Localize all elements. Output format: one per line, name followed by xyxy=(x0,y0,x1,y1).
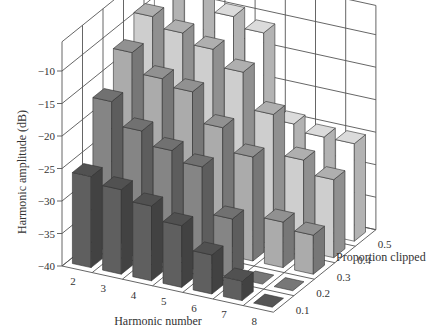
x-tick-label: 4 xyxy=(131,289,137,301)
bar-front-face xyxy=(72,173,91,268)
3d-bar-chart: −10−15−20−25−30−35−4023456780.10.20.30.4… xyxy=(0,0,434,332)
bar-side-face xyxy=(354,135,365,242)
y-axis-title: Proportion clipped xyxy=(336,250,426,264)
x-tick-label: 8 xyxy=(252,315,258,327)
x-axis-title: Harmonic number xyxy=(114,314,202,328)
z-axis-title: Harmonic amplitude (dB) xyxy=(15,110,29,234)
bar-front-face xyxy=(133,202,152,281)
bar-front-face xyxy=(103,186,122,275)
z-tick-label: −35 xyxy=(38,228,56,240)
y-tick-label: 0.2 xyxy=(316,287,330,299)
x-tick-label: 2 xyxy=(70,275,76,287)
z-tick-label: −25 xyxy=(38,163,56,175)
z-tick-label: −15 xyxy=(38,98,56,110)
y-tick-label: 0.1 xyxy=(296,304,310,316)
bar xyxy=(193,242,223,294)
z-tick-label: −40 xyxy=(38,260,56,272)
bar-side-face xyxy=(121,181,132,275)
bar-floor-tile xyxy=(274,278,304,291)
z-tick-label: −10 xyxy=(38,65,56,77)
bar-front-face xyxy=(163,222,182,288)
bar xyxy=(163,213,193,288)
x-tick-label: 6 xyxy=(191,302,197,314)
bar xyxy=(72,164,102,268)
bar-side-face xyxy=(182,217,193,288)
bar xyxy=(133,193,163,281)
z-tick-label: −30 xyxy=(38,195,56,207)
chart-canvas: −10−15−20−25−30−35−4023456780.10.20.30.4… xyxy=(0,0,434,332)
bar-side-face xyxy=(91,168,102,268)
x-tick-label: 5 xyxy=(161,295,167,307)
z-tick-label: −20 xyxy=(38,130,56,142)
bar-front-face xyxy=(295,231,314,274)
bar-front-face xyxy=(264,218,283,268)
bar-side-face xyxy=(334,171,345,258)
bar xyxy=(264,209,294,268)
bar-floor-tile xyxy=(254,294,284,307)
y-tick-label: 0.5 xyxy=(378,238,392,250)
bar-side-face xyxy=(253,148,264,261)
x-tick-label: 3 xyxy=(101,282,107,294)
bar xyxy=(103,177,133,275)
bar xyxy=(254,294,284,307)
bar-side-face xyxy=(152,197,163,281)
chart-bars xyxy=(72,0,365,307)
y-tick-label: 0.3 xyxy=(337,271,351,283)
bar-side-face xyxy=(283,213,294,268)
x-tick-label: 7 xyxy=(221,308,227,320)
bar xyxy=(274,278,304,291)
bar-side-face xyxy=(232,210,243,278)
bar xyxy=(295,222,325,274)
bar-front-face xyxy=(193,251,212,294)
